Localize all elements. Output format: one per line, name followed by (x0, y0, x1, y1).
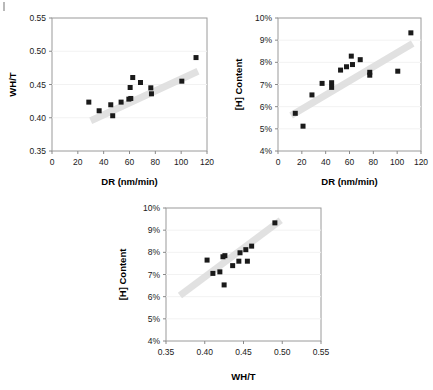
x-tick-label: 0.40 (196, 347, 213, 357)
data-point-marker (230, 263, 235, 268)
y-tick-label: 6% (260, 102, 273, 112)
x-tick-label: 120 (200, 157, 214, 167)
data-point-marker (148, 85, 153, 90)
x-tick-label: 0.50 (274, 347, 291, 357)
data-point-marker (344, 64, 349, 69)
data-point-marker (329, 85, 334, 90)
x-tick-label: 60 (345, 157, 355, 167)
data-point-marker (301, 124, 306, 129)
y-tick-label: 9% (260, 35, 273, 45)
data-point-marker (350, 62, 355, 67)
data-point-marker (367, 73, 372, 78)
x-tick-label: 0.35 (158, 347, 175, 357)
x-tick-label: 100 (174, 157, 188, 167)
data-point-marker (86, 100, 91, 105)
x-tick-label: 20 (73, 157, 83, 167)
x-tick-label: 0 (276, 157, 281, 167)
data-point-marker (222, 253, 227, 258)
x-tick-label: 80 (369, 157, 379, 167)
data-point-marker (194, 55, 199, 60)
y-tick-label: 0.45 (29, 80, 46, 90)
y-tick-label: 5% (148, 314, 161, 324)
x-tick-label: 40 (99, 157, 109, 167)
x-tick-label: 0.45 (235, 347, 252, 357)
data-point-marker (222, 282, 227, 287)
data-point-marker (293, 111, 298, 116)
y-tick-label: 10% (255, 13, 272, 23)
chart-panel-wht-vs-dr: 0.350.400.450.500.55020406080100120DR (n… (0, 0, 228, 195)
data-point-marker (97, 108, 102, 113)
data-point-marker (119, 100, 124, 105)
data-point-marker (130, 75, 135, 80)
x-axis-title: DR (nm/min) (321, 176, 377, 187)
data-point-marker (128, 96, 133, 101)
data-point-marker (329, 80, 334, 85)
data-point-marker (238, 250, 243, 255)
data-point-marker (358, 57, 363, 62)
data-point-marker (179, 79, 184, 84)
y-tick-label: 9% (148, 225, 161, 235)
data-point-marker (245, 259, 250, 264)
data-point-marker (108, 102, 113, 107)
data-point-marker (272, 220, 277, 225)
data-point-marker (236, 259, 241, 264)
y-axis-title: [H] Content (233, 58, 244, 111)
data-point-marker (338, 68, 343, 73)
y-axis-title: WH/T (7, 72, 18, 96)
chart-panel-hcontent-vs-wht: 4%5%6%7%8%9%10%0.350.400.450.500.55WH/T[… (104, 192, 332, 390)
x-tick-label: 80 (151, 157, 161, 167)
y-tick-label: 5% (260, 124, 273, 134)
data-point-marker (205, 258, 210, 263)
x-tick-label: 60 (125, 157, 135, 167)
y-tick-label: 0.35 (29, 146, 46, 156)
data-point-marker (395, 69, 400, 74)
y-tick-label: 0.40 (29, 113, 46, 123)
data-point-marker (149, 91, 154, 96)
data-point-marker (408, 30, 413, 35)
y-tick-label: 7% (260, 80, 273, 90)
x-tick-label: 0 (50, 157, 55, 167)
chart-hcontent-vs-wht-svg: 4%5%6%7%8%9%10%0.350.400.450.500.55WH/T[… (104, 192, 332, 390)
data-point-marker (128, 85, 133, 90)
data-point-marker (217, 269, 222, 274)
data-point-marker (309, 92, 314, 97)
data-point-marker (138, 80, 143, 85)
chart-panel-hcontent-vs-dr: 4%5%6%7%8%9%10%020406080100120DR (nm/min… (228, 0, 433, 195)
x-axis-title: WH/T (231, 371, 255, 382)
data-point-marker (320, 81, 325, 86)
x-tick-label: 20 (297, 157, 307, 167)
data-point-marker (249, 244, 254, 249)
y-tick-label: 0.55 (29, 13, 46, 23)
chart-wht-vs-dr-svg: 0.350.400.450.500.55020406080100120DR (n… (0, 0, 228, 195)
y-axis-title: [H] Content (117, 248, 128, 301)
y-tick-label: 10% (143, 203, 160, 213)
y-tick-label: 4% (148, 336, 161, 346)
y-tick-label: 4% (260, 146, 273, 156)
chart-hcontent-vs-dr-svg: 4%5%6%7%8%9%10%020406080100120DR (nm/min… (228, 0, 433, 195)
y-tick-label: 0.50 (29, 46, 46, 56)
data-point-marker (210, 271, 215, 276)
x-tick-label: 0.55 (313, 347, 330, 357)
x-axis-title: DR (nm/min) (101, 176, 157, 187)
data-point-marker (243, 247, 248, 252)
y-tick-label: 7% (148, 270, 161, 280)
x-tick-label: 40 (321, 157, 331, 167)
y-tick-label: 6% (148, 292, 161, 302)
data-point-marker (110, 113, 115, 118)
x-tick-label: 100 (390, 157, 404, 167)
data-point-marker (349, 54, 354, 59)
y-tick-label: 8% (148, 247, 161, 257)
y-tick-label: 8% (260, 57, 273, 67)
x-tick-label: 120 (414, 157, 428, 167)
